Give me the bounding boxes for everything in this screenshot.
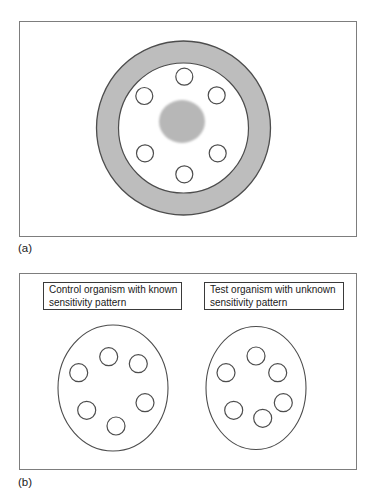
antibiotic-disc: [100, 348, 118, 366]
antibiotic-disc: [217, 364, 235, 382]
antibiotic-disc: [70, 364, 88, 382]
panel-b-label: (b): [18, 476, 32, 488]
antibiotic-disc: [129, 355, 147, 373]
panel-a: [19, 21, 357, 237]
antibiotic-disc: [209, 145, 226, 162]
control-label-line2: sensitivity pattern: [49, 297, 177, 310]
panel-b: Control organism with known sensitivity …: [19, 273, 357, 470]
figure-caption-clipped: ARRANGEMENT OF THE SENSITIVITY DISCS ON …: [0, 0, 372, 5]
test-label-line2: sensitivity pattern: [210, 297, 339, 310]
antibiotic-disc: [225, 401, 243, 419]
antibiotic-disc: [107, 417, 125, 435]
antibiotic-disc: [247, 347, 265, 365]
antibiotic-disc: [136, 88, 153, 105]
antibiotic-disc: [274, 394, 292, 412]
figure-page: ARRANGEMENT OF THE SENSITIVITY DISCS ON …: [0, 0, 372, 499]
antibiotic-disc: [176, 68, 193, 85]
petri-dish-diagram: [20, 22, 358, 238]
antibiotic-disc: [269, 364, 287, 382]
test-culture-plate: [206, 327, 306, 450]
panel-a-label: (a): [18, 242, 32, 254]
antibiotic-disc: [208, 87, 225, 104]
antibiotic-disc: [176, 166, 193, 183]
control-organism-label-box: Control organism with known sensitivity …: [43, 282, 182, 310]
control-label-line1: Control organism with known: [49, 284, 177, 297]
antibiotic-disc: [254, 409, 272, 427]
test-label-line1: Test organism with unknown: [210, 284, 339, 297]
antibiotic-disc: [78, 401, 96, 419]
central-inoculum-zone: [159, 100, 205, 143]
antibiotic-disc: [136, 394, 154, 412]
antibiotic-disc: [137, 145, 154, 162]
test-organism-label-box: Test organism with unknown sensitivity p…: [204, 282, 344, 310]
